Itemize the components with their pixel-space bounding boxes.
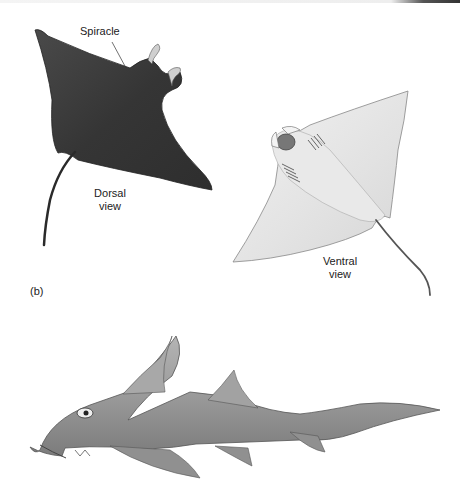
figure-illustrations (0, 0, 460, 491)
ventral-view-label: Ventral view (318, 255, 362, 281)
ventral-label-line1: Ventral (318, 255, 362, 268)
panel-label-b: (b) (30, 285, 43, 298)
dorsal-label-line2: view (90, 200, 130, 213)
dorsal-label-line1: Dorsal (90, 187, 130, 200)
spiracle-label: Spiracle (80, 25, 120, 38)
dorsal-view-label: Dorsal view (90, 187, 130, 213)
ventral-label-line2: view (318, 268, 362, 281)
chimaera-illustration (30, 336, 440, 478)
